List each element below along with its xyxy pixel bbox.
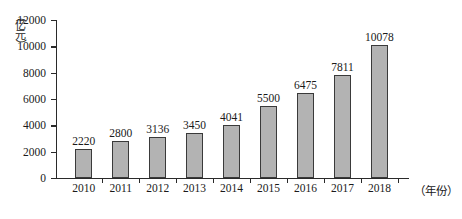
bar <box>334 75 351 178</box>
bar <box>223 125 240 178</box>
y-axis-tick-label: 4000 <box>23 119 46 131</box>
y-axis-tick-label: 10000 <box>17 40 46 52</box>
bar-value-label: 10078 <box>365 31 394 43</box>
x-axis-tick <box>213 178 214 183</box>
x-axis-label: 2011 <box>109 182 132 194</box>
bar-chart: （ 亿 元 ） 020004000600080001000012000 2220… <box>0 0 462 219</box>
bar-value-label: 7811 <box>331 61 354 73</box>
x-axis-label: 2016 <box>294 182 317 194</box>
bar <box>149 137 166 178</box>
x-axis-label: 2010 <box>72 182 95 194</box>
x-axis-tick <box>102 178 103 183</box>
y-axis-tick-label: 0 <box>40 172 46 184</box>
x-axis-unit-label: （年份） <box>414 182 458 198</box>
y-axis-tick <box>51 178 56 179</box>
x-axis-label: 2012 <box>146 182 169 194</box>
bar-value-label: 3136 <box>146 123 169 135</box>
bar <box>75 149 92 178</box>
y-axis-tick-label: 2000 <box>23 146 46 158</box>
y-axis-tick-label: 6000 <box>23 93 46 105</box>
x-axis-label: 2014 <box>220 182 243 194</box>
x-axis-label: 2015 <box>257 182 280 194</box>
x-axis-label: 2018 <box>368 182 391 194</box>
x-axis-label: 2013 <box>183 182 206 194</box>
bar-value-label: 6475 <box>294 79 317 91</box>
x-axis-label: 2017 <box>331 182 354 194</box>
x-axis-tick <box>324 178 325 183</box>
bar <box>186 133 203 178</box>
bar <box>112 141 129 178</box>
x-axis-tick <box>139 178 140 183</box>
bar-value-label: 2800 <box>109 127 132 139</box>
x-axis-tick <box>361 178 362 183</box>
bar <box>371 45 388 178</box>
y-axis-tick-label: 12000 <box>17 14 46 26</box>
bar-value-label: 2220 <box>72 135 95 147</box>
x-axis-tick <box>398 178 399 183</box>
x-axis-tick <box>176 178 177 183</box>
x-axis-tick <box>287 178 288 183</box>
bar-value-label: 5500 <box>257 92 280 104</box>
bar <box>297 93 314 178</box>
x-axis-line <box>56 178 409 179</box>
bar-value-label: 3450 <box>183 119 206 131</box>
y-axis-tick-label: 8000 <box>23 67 46 79</box>
bar <box>260 106 277 178</box>
plot-area: 2220280031363450404155006475781110078 <box>56 20 409 178</box>
bar-value-label: 4041 <box>220 111 243 123</box>
x-axis-tick <box>250 178 251 183</box>
